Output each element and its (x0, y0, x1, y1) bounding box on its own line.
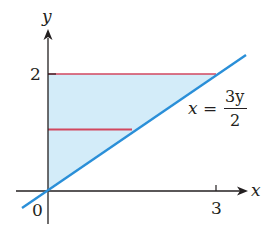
equation-lhs: x (188, 98, 198, 118)
x-axis-label: x (251, 180, 261, 200)
equation-numerator: 3y (225, 87, 244, 106)
origin-label: 0 (32, 200, 43, 220)
region-diagram: y 2 0 3 x x = 3y 2 (0, 0, 270, 234)
equation-equals: = (203, 98, 217, 118)
y-axis-label: y (41, 6, 52, 26)
x-tick-label: 3 (211, 198, 222, 218)
equation-denominator: 2 (230, 111, 240, 130)
y-tick-label: 2 (30, 64, 41, 84)
